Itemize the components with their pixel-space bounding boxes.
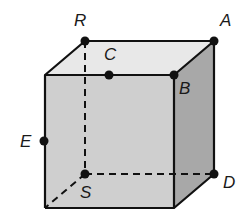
label-C: C — [104, 45, 117, 64]
cube-diagram: R A C B E S D — [0, 0, 246, 212]
label-A: A — [219, 11, 231, 30]
label-B: B — [179, 79, 190, 98]
point-R — [81, 37, 90, 46]
front-face — [45, 75, 174, 208]
point-A — [210, 37, 219, 46]
point-D — [210, 170, 219, 179]
point-B — [170, 71, 179, 80]
point-C — [105, 71, 114, 80]
point-E — [40, 137, 49, 146]
label-R: R — [74, 11, 86, 30]
label-E: E — [20, 132, 32, 151]
label-D: D — [223, 173, 235, 192]
label-S: S — [80, 183, 92, 202]
point-S — [81, 170, 90, 179]
